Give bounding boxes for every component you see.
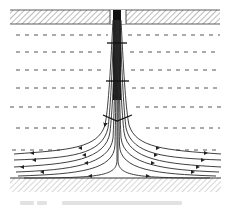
streamlines [14, 20, 221, 178]
caption-glyph [37, 201, 47, 205]
caption-glyph [20, 201, 34, 205]
caption-glyph [62, 201, 182, 205]
diagram [0, 0, 235, 209]
bottom-wall [10, 178, 221, 192]
figure-caption [20, 199, 210, 207]
